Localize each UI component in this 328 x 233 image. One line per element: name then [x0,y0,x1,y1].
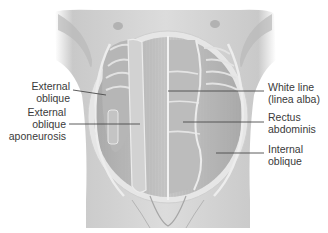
left-nipple [113,22,123,30]
label-rectus-abdominis: Rectus abdominis [268,111,328,135]
label-external-oblique-aponeurosis: External oblique aponeurosis [6,106,66,142]
right-nipple [210,20,220,28]
label-external-oblique: External oblique [10,80,70,104]
anatomy-figure: External oblique External oblique aponeu… [0,0,328,233]
label-internal-oblique: Internal oblique [268,143,328,167]
label-white-line: White line (linea alba) [268,81,328,105]
